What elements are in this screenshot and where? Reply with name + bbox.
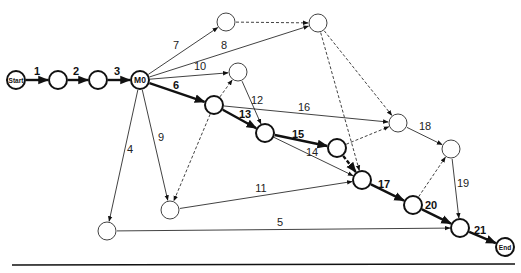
edge-dummy-n6-n9 (174, 114, 210, 201)
node-b (89, 71, 107, 89)
edge-label: 1 (34, 65, 40, 77)
edge-label: 14 (306, 146, 318, 158)
edge-label: 10 (194, 60, 206, 72)
edge-10 (150, 73, 228, 79)
edge-9 (142, 90, 168, 201)
edge-dummy-n15-n16 (346, 127, 388, 144)
edge-label: 17 (378, 178, 390, 190)
edge-label: 9 (158, 131, 164, 143)
edge-label: 5 (277, 216, 283, 228)
node-n10 (229, 63, 247, 81)
edge-20 (422, 209, 451, 223)
node-label: End (499, 244, 511, 251)
baseline-divider (12, 264, 515, 265)
node-n13 (256, 124, 274, 142)
node-n15 (328, 139, 346, 157)
edge-4 (109, 90, 138, 221)
node-t1 (217, 13, 235, 31)
node-a (49, 71, 67, 89)
edge-5 (117, 228, 450, 231)
edge-label: 21 (474, 224, 486, 236)
edge-label: 11 (255, 182, 266, 194)
edge-label: 13 (239, 108, 251, 120)
edge-label: 19 (457, 177, 469, 189)
node-n17 (353, 171, 371, 189)
edge-label: 8 (221, 39, 227, 51)
edge-dummy-n15-n17 (343, 156, 356, 172)
node-n21 (451, 219, 469, 237)
edge-label: 4 (127, 143, 133, 155)
node-n20 (404, 196, 422, 214)
node-n9 (161, 201, 179, 219)
edge-dummy-t2-n16 (324, 31, 392, 115)
edge-label: 3 (114, 65, 120, 77)
edge-label: 15 (292, 128, 304, 140)
edge-label: 16 (298, 101, 310, 113)
node-label: M0 (134, 75, 146, 85)
edge-dummy-n6-n10 (220, 80, 232, 97)
edge-label: 12 (251, 94, 263, 106)
node-t2 (309, 14, 327, 32)
edge-label: 18 (419, 120, 431, 132)
edge-dummy-n20-n18 (419, 157, 446, 196)
node-n18 (442, 140, 460, 158)
network-diagram: 123781064912131615141118171920521 StartM… (0, 0, 521, 273)
node-n4 (98, 222, 116, 240)
edge-label: 2 (73, 65, 79, 77)
edge-label: 6 (173, 79, 179, 91)
nodes-layer: StartM0End (7, 13, 514, 256)
node-n16 (389, 114, 407, 132)
edge-7 (148, 28, 217, 75)
edge-label: 7 (173, 39, 179, 51)
node-n6 (205, 96, 223, 114)
node-label: Start (9, 77, 25, 84)
edge-dummy-t1-t2 (236, 22, 308, 23)
edge-label: 20 (425, 199, 437, 211)
